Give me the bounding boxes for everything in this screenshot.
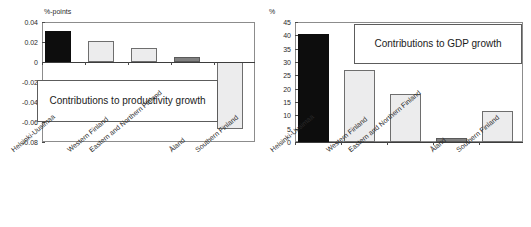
y-axis-unit-label: %-points bbox=[44, 8, 71, 16]
y-tick-label: 30 bbox=[265, 59, 291, 66]
x-tick-mark bbox=[295, 142, 296, 145]
y-tick-label: 45 bbox=[265, 19, 291, 26]
caption-gdp: Contributions to GDP growth bbox=[354, 24, 522, 64]
x-tick-mark bbox=[479, 142, 480, 145]
bar-helsinki-uusimaa bbox=[45, 31, 71, 62]
zero-baseline bbox=[42, 62, 255, 63]
bar-eastern-northern-finland bbox=[131, 48, 157, 63]
x-tick-mark bbox=[387, 142, 388, 145]
y-tick-label: -0.02 bbox=[4, 79, 38, 86]
x-tick-mark bbox=[128, 62, 129, 65]
y-tick-label: 10 bbox=[265, 112, 291, 119]
y-axis-unit-label: % bbox=[269, 8, 275, 16]
y-tick-label: 0 bbox=[4, 59, 38, 66]
two-panel-bar-chart-figure: %-points 0.04 0.02 0 -0.02 -0.04 -0.06 -… bbox=[0, 0, 531, 227]
y-tick-label: 40 bbox=[265, 32, 291, 39]
bar-western-finland bbox=[88, 41, 114, 62]
x-tick-mark bbox=[85, 62, 86, 65]
panel-productivity: %-points 0.04 0.02 0 -0.02 -0.04 -0.06 -… bbox=[0, 0, 265, 227]
y-tick-mark bbox=[295, 22, 298, 23]
y-tick-mark bbox=[42, 142, 45, 143]
y-tick-label: 15 bbox=[265, 99, 291, 106]
caption-text: Contributions to GDP growth bbox=[374, 38, 501, 50]
caption-text: Contributions to productivity growth bbox=[49, 95, 205, 107]
y-tick-label: 0.04 bbox=[4, 19, 38, 26]
x-tick-mark bbox=[214, 62, 215, 65]
y-tick-label: -0.04 bbox=[4, 99, 38, 106]
x-tick-mark bbox=[171, 62, 172, 65]
panel-gdp: % 45 40 35 30 25 20 15 10 5 0 bbox=[265, 0, 531, 227]
y-tick-label: 35 bbox=[265, 46, 291, 53]
y-tick-label: 20 bbox=[265, 86, 291, 93]
y-tick-label: 0.02 bbox=[4, 39, 38, 46]
y-tick-label: -0.06 bbox=[4, 119, 38, 126]
x-tick-mark bbox=[42, 62, 43, 65]
y-tick-label: 25 bbox=[265, 72, 291, 79]
y-tick-mark bbox=[42, 22, 45, 23]
